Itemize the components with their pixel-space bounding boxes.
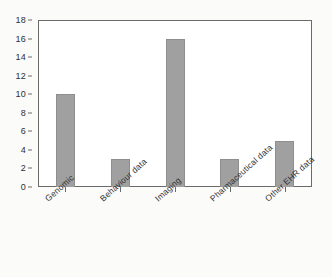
y-axis-tick-label: 18 [16,15,26,25]
y-axis-tick-mark [28,112,32,113]
bar [166,39,185,187]
y-axis-tick-mark [28,20,32,21]
bar [56,94,75,187]
y-axis-tick-label: 8 [21,108,26,118]
y-axis-tick-mark [28,94,32,95]
y-axis-tick-label: 16 [16,34,26,44]
y-axis-tick-label: 2 [21,163,26,173]
y-axis-tick-label: 0 [21,182,26,192]
y-axis: 181614121086420 [0,20,32,187]
y-axis-tick-mark [28,149,32,150]
y-axis-tick-label: 10 [16,89,26,99]
y-axis-tick-mark [28,168,32,169]
y-axis-tick-mark [28,57,32,58]
bar-chart-figure: 181614121086420 GenomicBehaviour dataIma… [0,0,332,277]
y-axis-tick-mark [28,38,32,39]
y-axis-tick-label: 4 [21,145,26,155]
y-axis-tick-mark [28,187,32,188]
y-axis-tick-mark [28,75,32,76]
y-axis-tick-label: 12 [16,71,26,81]
y-axis-tick-label: 6 [21,126,26,136]
y-axis-tick-label: 14 [16,52,26,62]
y-axis-tick-mark [28,131,32,132]
